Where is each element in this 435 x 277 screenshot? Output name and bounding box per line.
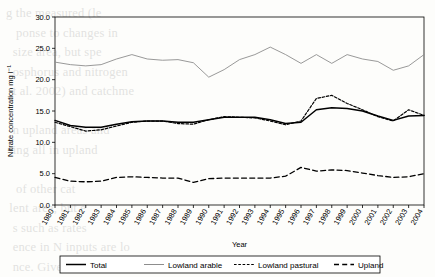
legend-label-upland: Upland xyxy=(358,261,383,270)
series-line-upland xyxy=(55,167,424,182)
x-axis-tick-label: 1989 xyxy=(178,208,194,227)
x-axis-tick-label: 1985 xyxy=(116,208,132,227)
x-axis-tick-label: 1983 xyxy=(86,208,102,227)
y-axis-tick-label: 5.0 xyxy=(40,169,50,178)
plot-frame xyxy=(55,17,424,205)
x-axis-tick-label: 1986 xyxy=(132,208,148,227)
x-axis-tick-label: 1996 xyxy=(286,208,302,227)
x-axis-tick-label: 1981 xyxy=(55,208,71,227)
x-axis-tick-label: 1980 xyxy=(40,208,56,227)
x-axis-tick-label: 1982 xyxy=(70,208,86,227)
x-axis-tick-label: 1995 xyxy=(270,208,286,227)
y-axis-tick-label: 15.0 xyxy=(35,107,50,116)
x-axis-tick-label: 1994 xyxy=(255,208,271,227)
legend-label-lowland-arable: Lowland arable xyxy=(168,261,223,270)
chart-svg: 0.05.010.015.020.025.030.0Nitrate concen… xyxy=(0,0,435,277)
series-line-lowland-arable xyxy=(55,47,424,77)
y-axis-tick-label: 25.0 xyxy=(35,44,50,53)
nitrate-concentration-chart: 0.05.010.015.020.025.030.0Nitrate concen… xyxy=(0,0,435,277)
y-axis-tick-label: 30.0 xyxy=(35,13,50,22)
x-axis-tick-label: 1991 xyxy=(209,208,225,227)
x-axis-tick-label: 1998 xyxy=(316,208,332,227)
y-axis-tick-label: 10.0 xyxy=(35,138,50,147)
x-axis-tick-label: 1990 xyxy=(193,208,209,227)
x-axis-tick-label: 2004 xyxy=(409,208,425,227)
legend-label-lowland-pastural: Lowland pastural xyxy=(258,261,319,270)
x-axis-tick-label: 1988 xyxy=(163,208,179,227)
x-axis-tick-label: 2000 xyxy=(347,208,363,227)
x-axis-tick-label: 2002 xyxy=(378,208,394,227)
x-axis-tick-label: 1987 xyxy=(147,208,163,227)
x-axis-tick-label: 1992 xyxy=(224,208,240,227)
y-axis-title: Nitrate concentration mg l⁻¹ xyxy=(6,65,15,157)
x-axis-title: Year xyxy=(232,240,248,249)
x-axis-tick-label: 1993 xyxy=(239,208,255,227)
x-axis-tick-label: 2003 xyxy=(393,208,409,227)
x-axis-tick-label: 1984 xyxy=(101,208,117,227)
legend-label-total: Total xyxy=(90,261,107,270)
y-axis-tick-label: 20.0 xyxy=(35,75,50,84)
x-axis-tick-label: 1999 xyxy=(332,208,348,227)
x-axis-tick-label: 1997 xyxy=(301,208,317,227)
x-axis-tick-label: 2001 xyxy=(362,208,378,227)
